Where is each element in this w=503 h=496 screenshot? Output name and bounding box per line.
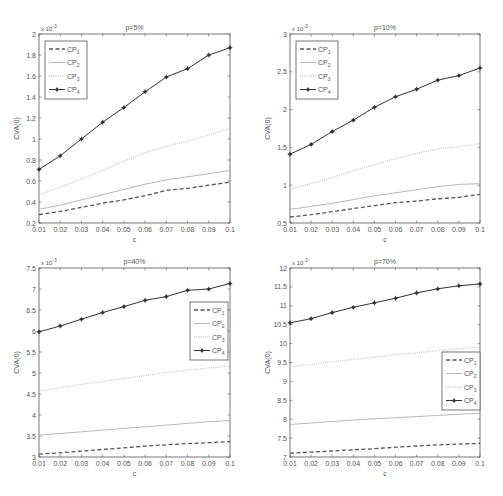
y-scale-exponent: x 10-3 xyxy=(41,257,57,266)
y-tick-label: 0.4 xyxy=(26,199,36,206)
y-tick-label: 4 xyxy=(32,412,36,419)
y-tick-label: 6.5 xyxy=(26,307,36,314)
x-tick-label: 0.05 xyxy=(368,460,382,467)
y-tick-label: 5.5 xyxy=(26,349,36,356)
y-tick-label: 8 xyxy=(283,416,287,423)
x-tick-label: 0.06 xyxy=(138,460,152,467)
x-tick-label: 0.03 xyxy=(75,226,89,233)
x-tick-label: 0.1 xyxy=(225,226,235,233)
x-tick-label: 0.04 xyxy=(347,460,361,467)
x-tick-label: 0.07 xyxy=(410,460,424,467)
y-tick-label: 0.2 xyxy=(26,220,36,227)
y-tick-label: 7 xyxy=(32,286,36,293)
x-tick-label: 0.05 xyxy=(117,226,131,233)
y-tick-label: 2.5 xyxy=(277,68,287,75)
chart-title: p=40% xyxy=(124,258,146,266)
legend: CP1CP2CP3CP4 xyxy=(442,352,480,410)
y-tick-label: 10 xyxy=(279,340,287,347)
y-tick-label: 3 xyxy=(32,454,36,461)
chart-panel-3: 0.010.020.030.040.050.060.070.080.090.13… xyxy=(13,257,235,477)
x-tick-label: 0.03 xyxy=(75,460,89,467)
chart-panel-1: 0.010.020.030.040.050.060.070.080.090.10… xyxy=(13,23,235,243)
y-tick-label: 4.5 xyxy=(26,391,36,398)
y-tick-label: 2 xyxy=(32,31,36,38)
x-tick-label: 0.09 xyxy=(452,460,466,467)
x-axis-label: c xyxy=(133,236,137,243)
x-tick-label: 0.01 xyxy=(32,226,46,233)
y-tick-label: 1.6 xyxy=(26,73,36,80)
x-tick-label: 0.02 xyxy=(53,460,67,467)
y-scale-exponent: x 10-3 xyxy=(292,257,308,266)
y-tick-label: 1.4 xyxy=(26,94,36,101)
y-tick-label: 0.5 xyxy=(277,220,287,227)
y-tick-label: 1.2 xyxy=(26,115,36,122)
x-axis-label: c xyxy=(133,470,137,477)
y-scale-exponent: x 10-3 xyxy=(41,23,57,32)
figure-grid: 0.010.020.030.040.050.060.070.080.090.10… xyxy=(0,0,503,496)
x-tick-label: 0.06 xyxy=(389,226,403,233)
x-tick-label: 0.01 xyxy=(283,460,297,467)
x-tick-label: 0.05 xyxy=(368,226,382,233)
y-tick-label: 0.8 xyxy=(26,157,36,164)
legend: CP1CP2CP3CP4 xyxy=(296,41,338,99)
x-tick-label: 0.02 xyxy=(53,226,67,233)
x-tick-label: 0.06 xyxy=(138,226,152,233)
figure-canvas: 0.010.020.030.040.050.060.070.080.090.10… xyxy=(0,0,503,496)
y-tick-label: 8.5 xyxy=(277,397,287,404)
x-tick-label: 0.04 xyxy=(96,460,110,467)
y-tick-label: 7.5 xyxy=(26,265,36,272)
y-tick-label: 6 xyxy=(32,328,36,335)
legend-box xyxy=(296,41,338,99)
x-tick-label: 0.07 xyxy=(160,460,174,467)
y-axis-label: CVA(0) xyxy=(264,117,272,139)
y-tick-label: 2 xyxy=(283,106,287,113)
chart-title: p=10% xyxy=(374,24,396,32)
y-tick-label: 10.5 xyxy=(273,321,287,328)
y-tick-label: 12 xyxy=(279,265,287,272)
y-tick-label: 1 xyxy=(32,136,36,143)
x-tick-label: 0.09 xyxy=(452,226,466,233)
x-tick-label: 0.01 xyxy=(32,460,46,467)
y-tick-label: 9.5 xyxy=(277,359,287,366)
x-tick-label: 0.07 xyxy=(410,226,424,233)
x-tick-label: 0.04 xyxy=(347,226,361,233)
y-tick-label: 1.8 xyxy=(26,52,36,59)
x-tick-label: 0.08 xyxy=(181,226,195,233)
y-scale-exponent: x 10-3 xyxy=(292,23,308,32)
y-tick-label: 3.5 xyxy=(26,433,36,440)
x-tick-label: 0.08 xyxy=(431,226,445,233)
x-tick-label: 0.01 xyxy=(283,226,297,233)
legend: CP1CP2CP3CP4 xyxy=(190,302,228,360)
x-tick-label: 0.09 xyxy=(202,460,216,467)
x-tick-label: 0.1 xyxy=(475,460,485,467)
y-tick-label: 5 xyxy=(32,370,36,377)
chart-panel-2: 0.010.020.030.040.050.060.070.080.090.10… xyxy=(264,23,485,243)
y-axis-label: CVA(0) xyxy=(264,351,272,373)
y-tick-label: 1 xyxy=(283,182,287,189)
x-tick-label: 0.02 xyxy=(304,460,318,467)
x-tick-label: 0.04 xyxy=(96,226,110,233)
chart-title: p=70% xyxy=(374,258,396,266)
legend-box xyxy=(45,41,87,99)
x-tick-label: 0.03 xyxy=(325,226,339,233)
y-axis-label: CVA(0) xyxy=(13,351,21,373)
y-tick-label: 9 xyxy=(283,378,287,385)
x-tick-label: 0.05 xyxy=(117,460,131,467)
y-tick-label: 11.5 xyxy=(274,283,287,290)
x-tick-label: 0.03 xyxy=(325,460,339,467)
y-tick-label: 7 xyxy=(283,454,287,461)
x-tick-label: 0.08 xyxy=(181,460,195,467)
plot-area xyxy=(39,268,230,457)
x-tick-label: 0.1 xyxy=(475,226,485,233)
x-tick-label: 0.08 xyxy=(431,460,445,467)
y-axis-label: CVA(0) xyxy=(13,117,21,139)
y-tick-label: 0.6 xyxy=(26,178,36,185)
y-tick-label: 11 xyxy=(280,302,287,309)
chart-title: p=5% xyxy=(125,24,143,32)
x-tick-label: 0.02 xyxy=(304,226,318,233)
y-tick-label: 3 xyxy=(283,31,287,38)
y-tick-label: 7.5 xyxy=(277,435,287,442)
x-axis-label: c xyxy=(383,236,387,243)
y-tick-label: 1.5 xyxy=(277,144,287,151)
chart-panel-4: 0.010.020.030.040.050.060.070.080.090.17… xyxy=(264,257,485,477)
